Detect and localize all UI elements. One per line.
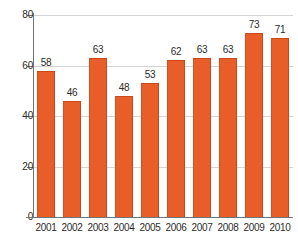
- bar-value-label: 73: [241, 20, 267, 30]
- bar: [141, 83, 159, 217]
- bar: [167, 60, 185, 217]
- bar-value-label: 48: [111, 83, 137, 93]
- bar-value-label: 46: [59, 88, 85, 98]
- bar-chart: 806040200 58466348536263637371 200120022…: [0, 0, 298, 237]
- bar: [271, 38, 289, 217]
- bar-value-label: 63: [215, 45, 241, 55]
- x-tick-label: 2010: [265, 222, 295, 233]
- y-tick: 20: [0, 162, 33, 172]
- y-tick-label: 60: [9, 61, 33, 71]
- bar-value-label: 58: [33, 58, 59, 68]
- bar-value-label: 63: [189, 45, 215, 55]
- bar: [219, 58, 237, 217]
- bar: [63, 101, 81, 217]
- bar: [245, 33, 263, 217]
- bar: [115, 96, 133, 217]
- y-tick-label: 20: [9, 162, 33, 172]
- bars-group: [33, 15, 293, 217]
- bar-value-label: 53: [137, 70, 163, 80]
- y-tick: 40: [0, 111, 33, 121]
- bar: [193, 58, 211, 217]
- x-axis-line: [26, 217, 293, 218]
- bar: [89, 58, 107, 217]
- bar-value-label: 62: [163, 47, 189, 57]
- y-tick-label: 40: [9, 111, 33, 121]
- bar-value-label: 63: [85, 45, 111, 55]
- y-tick: 80: [0, 10, 33, 20]
- bar: [37, 71, 55, 217]
- y-tick: 60: [0, 61, 33, 71]
- y-tick-label: 80: [9, 10, 33, 20]
- bar-value-label: 71: [267, 25, 293, 35]
